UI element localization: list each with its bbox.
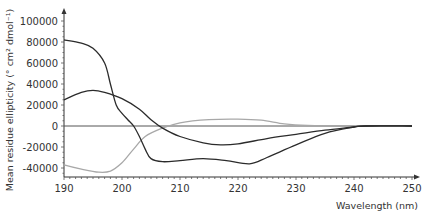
y-tick-label: 80000 — [26, 37, 58, 48]
y-tick-label: -40000 — [23, 163, 58, 174]
y-axis-label: Mean residue ellipticity (° cm² dmol⁻¹) — [4, 9, 15, 191]
axes: 100000800006000040000200000-20000-400001… — [20, 8, 422, 194]
series-curve-grey — [64, 119, 412, 172]
y-tick-label: 0 — [52, 121, 58, 132]
x-axis-label: Wavelength (nm) — [336, 200, 418, 211]
x-axis-arrow-icon — [414, 175, 420, 180]
x-tick-label: 190 — [54, 183, 73, 194]
y-axis-arrow-icon — [62, 8, 67, 14]
y-tick-label: 40000 — [26, 79, 58, 90]
series-group — [64, 40, 412, 173]
y-tick-label: -20000 — [23, 142, 58, 153]
y-tick-label: 20000 — [26, 100, 58, 111]
series-curve-dark-1 — [64, 40, 412, 164]
y-tick-label: 60000 — [26, 58, 58, 69]
series-curve-dark-2 — [64, 90, 412, 145]
x-tick-label: 240 — [344, 183, 363, 194]
x-tick-label: 200 — [112, 183, 131, 194]
x-tick-label: 230 — [286, 183, 305, 194]
x-tick-label: 210 — [170, 183, 189, 194]
x-tick-label: 250 — [402, 183, 421, 194]
y-tick-label: 100000 — [20, 16, 58, 27]
x-tick-label: 220 — [228, 183, 247, 194]
cd-spectrum-chart: 100000800006000040000200000-20000-400001… — [0, 0, 435, 212]
